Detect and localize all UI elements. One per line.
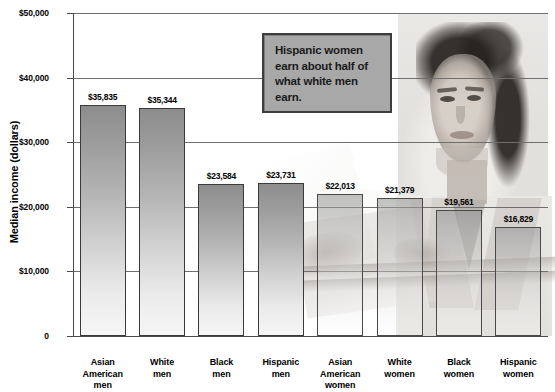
y-axis-tick-label: $20,000 (19, 202, 49, 212)
bar-value-label: $21,379 (385, 185, 414, 195)
bar-value-label: $35,344 (147, 95, 176, 105)
bar-group: $35,835AsianAmericanmen (73, 13, 132, 336)
y-axis-tick-label: 0 (44, 331, 49, 341)
bar-group: $23,584Blackmen (192, 13, 251, 336)
y-axis-tick-label: $50,000 (19, 8, 49, 18)
bar-value-label: $23,584 (207, 171, 236, 181)
bar-group: $35,344Whitemen (132, 13, 191, 336)
category-label-line: women (303, 380, 377, 392)
bar[interactable] (317, 194, 363, 336)
y-axis-title: Median income (dollars) (8, 82, 20, 282)
y-axis-tick-label: $40,000 (19, 73, 49, 83)
category-label-line: men (66, 380, 140, 392)
bar-value-label: $35,835 (88, 92, 117, 102)
x-axis-category-label: Hispanicwomen (481, 357, 555, 380)
bar[interactable] (436, 210, 482, 336)
bar[interactable] (139, 108, 185, 336)
bar-value-label: $16,829 (504, 214, 533, 224)
bar[interactable] (495, 227, 541, 336)
category-label-line: women (481, 369, 555, 381)
y-axis-tick-label: $30,000 (19, 137, 49, 147)
bar-value-label: $22,013 (326, 181, 355, 191)
bar[interactable] (198, 184, 244, 336)
callout-text: Hispanic women earn about half of what w… (264, 35, 390, 105)
bar[interactable] (258, 183, 304, 336)
x-axis-line (73, 336, 548, 337)
bar-value-label: $19,561 (444, 197, 473, 207)
bar-group: $16,829Hispanicwomen (489, 13, 548, 336)
bar-group: $19,561Blackwomen (429, 13, 488, 336)
callout-box: Hispanic women earn about half of what w… (262, 33, 392, 113)
category-label-line: Hispanic (481, 357, 555, 369)
bar[interactable] (80, 105, 126, 336)
y-axis-tick-label: $10,000 (19, 266, 49, 276)
bar[interactable] (377, 198, 423, 336)
bar-value-label: $23,731 (266, 170, 295, 180)
